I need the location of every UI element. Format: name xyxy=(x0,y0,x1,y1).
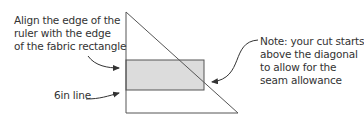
fabric-rectangle xyxy=(126,60,204,90)
note-label: Note: your cut starts above the diagonal… xyxy=(260,35,364,87)
arrow-note xyxy=(212,40,258,82)
arrow-align xyxy=(88,56,119,68)
align-label: Align the edge of the ruler with the edg… xyxy=(14,14,126,53)
six-in-line-label: 6in line xyxy=(54,89,91,102)
